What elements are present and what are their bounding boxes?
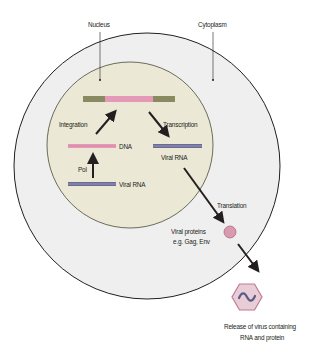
virus-particle-icon <box>232 284 262 310</box>
release-label-line1: Release of virus containing <box>224 322 296 331</box>
translation-label: Translation <box>217 201 246 210</box>
viral-proteins-example-label: e.g. Gag, Env <box>173 237 210 246</box>
viral-dna-bar <box>68 144 116 148</box>
viral-rna-bar-bottom <box>68 182 116 186</box>
viral-rna-label-right: Viral RNA <box>161 153 187 162</box>
release-label-line2: RNA and protein <box>240 333 284 342</box>
retrovirus-lifecycle-diagram: Nucleus Cytoplasm Integration Transcript… <box>0 0 325 356</box>
viral-protein-icon <box>224 226 236 238</box>
dna-label: DNA <box>119 142 132 151</box>
pol-label: Pol <box>78 165 87 174</box>
transcription-label: Transcription <box>163 120 197 129</box>
integration-label: Integration <box>59 120 87 129</box>
viral-proteins-label: Viral proteins <box>171 227 206 236</box>
nucleus-label: Nucleus <box>88 20 110 29</box>
cytoplasm-label: Cytoplasm <box>198 20 227 29</box>
diagram-graphics <box>0 0 325 356</box>
integrated-dna-bar <box>83 96 175 102</box>
viral-rna-bar-right <box>153 144 202 148</box>
viral-rna-label-bottom: Viral RNA <box>119 180 145 189</box>
